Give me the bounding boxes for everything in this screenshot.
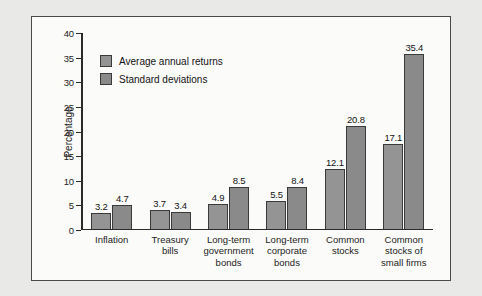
bar-item[interactable]: 35.4 bbox=[404, 33, 424, 229]
bar-item[interactable]: 12.1 bbox=[325, 33, 345, 229]
bar-item[interactable]: 4.7 bbox=[112, 33, 132, 229]
bar-group: 12.120.8Common stocks bbox=[316, 33, 374, 229]
bar-item[interactable]: 3.7 bbox=[150, 33, 170, 229]
y-tick-label: 25 bbox=[64, 101, 74, 112]
y-tick-mark bbox=[76, 58, 81, 59]
bar-item[interactable]: 17.1 bbox=[383, 33, 403, 229]
bar[interactable] bbox=[404, 54, 424, 228]
bar[interactable] bbox=[383, 144, 403, 228]
y-tick-label: 30 bbox=[64, 77, 74, 88]
bar[interactable] bbox=[150, 210, 170, 228]
y-tick-mark bbox=[76, 156, 81, 157]
bar-item[interactable]: 20.8 bbox=[346, 33, 366, 229]
bar-group: 5.58.4Long-term corporate bonds bbox=[258, 33, 316, 229]
bar[interactable] bbox=[112, 205, 132, 228]
bar-group: 4.98.5Long-term government bonds bbox=[199, 33, 257, 229]
bar-value-label: 20.8 bbox=[347, 114, 365, 125]
bar-item[interactable]: 8.5 bbox=[229, 33, 249, 229]
y-tick-mark bbox=[76, 82, 81, 83]
bar-item[interactable]: 3.2 bbox=[91, 33, 111, 229]
y-tick-label: 15 bbox=[64, 151, 74, 162]
y-tick-mark bbox=[76, 132, 81, 133]
bar[interactable] bbox=[346, 126, 366, 228]
bar-value-label: 4.9 bbox=[212, 192, 225, 203]
bar-value-label: 8.5 bbox=[233, 175, 246, 186]
x-axis-line bbox=[81, 229, 433, 231]
y-tick-mark bbox=[76, 107, 81, 108]
y-tick-label: 5 bbox=[69, 200, 74, 211]
y-tick-mark bbox=[76, 181, 81, 182]
x-axis-category-label: Common stocks of small firms bbox=[367, 234, 441, 269]
y-tick-mark bbox=[76, 33, 81, 34]
bar[interactable] bbox=[229, 187, 249, 229]
bar[interactable] bbox=[287, 187, 307, 228]
y-tick-label: 35 bbox=[64, 52, 74, 63]
bar-group: 17.135.4Common stocks of small firms bbox=[375, 33, 433, 229]
chart-figure: Average annual returns Standard deviatio… bbox=[31, 16, 451, 281]
bar-groups: 3.24.7Inflation3.73.4Treasury bills4.98.… bbox=[83, 33, 434, 229]
bar-item[interactable]: 5.5 bbox=[266, 33, 286, 229]
bar-value-label: 17.1 bbox=[384, 132, 402, 143]
bar[interactable] bbox=[171, 212, 191, 229]
bar-item[interactable]: 8.4 bbox=[287, 33, 307, 229]
plot-area: Percentage 0510152025303540 3.24.7Inflat… bbox=[81, 33, 433, 230]
y-tick-mark bbox=[76, 230, 81, 231]
bar-value-label: 8.4 bbox=[291, 175, 304, 186]
y-tick-mark bbox=[76, 205, 81, 206]
bar[interactable] bbox=[91, 213, 111, 229]
y-tick-label: 0 bbox=[69, 225, 74, 236]
bar-value-label: 12.1 bbox=[326, 157, 344, 168]
bar[interactable] bbox=[325, 169, 345, 229]
bar-item[interactable]: 4.9 bbox=[208, 33, 228, 229]
bar-item[interactable]: 3.4 bbox=[171, 33, 191, 229]
bar[interactable] bbox=[266, 201, 286, 228]
y-tick-label: 10 bbox=[64, 175, 74, 186]
bar-value-label: 5.5 bbox=[270, 189, 283, 200]
y-tick-label: 20 bbox=[64, 126, 74, 137]
y-tick-label: 40 bbox=[64, 28, 74, 39]
bar-group: 3.73.4Treasury bills bbox=[141, 33, 199, 229]
bar-value-label: 3.4 bbox=[174, 200, 187, 211]
bar-value-label: 3.7 bbox=[153, 198, 166, 209]
bar-group: 3.24.7Inflation bbox=[83, 33, 141, 229]
bar-value-label: 3.2 bbox=[95, 201, 108, 212]
bar[interactable] bbox=[208, 204, 228, 228]
bar-value-label: 4.7 bbox=[116, 193, 129, 204]
bar-value-label: 35.4 bbox=[405, 42, 423, 53]
